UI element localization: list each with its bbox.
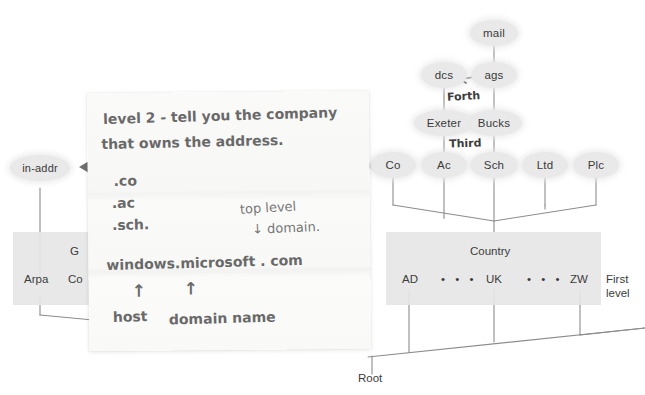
node-bucks[interactable]: Bucks	[466, 110, 522, 136]
first-level-ellipsis-left: • • •	[441, 273, 477, 285]
first-level-entry-arpa: Arpa	[24, 273, 48, 285]
note-label-host: host	[113, 308, 148, 325]
note-arrow-host: ↑	[132, 281, 146, 301]
node-co[interactable]: Co	[370, 152, 416, 178]
band-label-generic-partial: G	[70, 245, 79, 257]
note-label-domain-name: domain name	[169, 309, 276, 328]
label-first-level-line2: level	[606, 286, 630, 300]
first-level-entry-ad: AD	[402, 273, 418, 285]
note-fqdn: windows.microsoft . com	[106, 252, 303, 273]
first-level-entry-uk: UK	[486, 273, 502, 285]
node-dcs[interactable]: dcs	[421, 62, 467, 88]
label-first-level: First level	[606, 272, 630, 300]
band-label-country: Country	[470, 245, 510, 257]
note-tld-ac: .ac	[112, 194, 135, 211]
note-top-level-line2: ↓ domain.	[252, 219, 320, 237]
first-level-ellipsis-right: • • •	[527, 273, 563, 285]
node-ac[interactable]: Ac	[421, 152, 467, 178]
node-ltd[interactable]: Ltd	[522, 152, 568, 178]
first-level-entry-co-partial: Co	[68, 273, 83, 285]
note-line-1: level 2 - tell you the company	[103, 104, 338, 127]
note-tld-co: .co	[113, 172, 137, 189]
node-sch[interactable]: Sch	[470, 152, 518, 178]
note-top-level-line1: top level	[239, 198, 296, 216]
node-ags[interactable]: ags	[471, 62, 517, 88]
label-root: Root	[358, 372, 382, 384]
label-first-level-line1: First	[606, 272, 630, 286]
first-level-entry-zw: ZW	[570, 273, 588, 285]
node-in-addr[interactable]: in-addr	[10, 155, 70, 181]
note-arrow-domain: ↑	[183, 278, 197, 298]
node-plc[interactable]: Plc	[573, 152, 619, 178]
node-mail[interactable]: mail	[470, 20, 518, 46]
annotation-forth: Forth	[447, 89, 481, 104]
diagram-canvas: Country G AD • • • UK • • • ZW Arpa Co F…	[0, 0, 645, 395]
annotation-third: Third	[449, 136, 482, 150]
note-tld-sch: .sch.	[112, 216, 150, 233]
handwritten-note: level 2 - tell you the company that owns…	[87, 91, 371, 351]
node-exeter[interactable]: Exeter	[414, 110, 474, 136]
note-line-2: that owns the address.	[101, 132, 284, 152]
band-first-level-right	[386, 232, 601, 305]
